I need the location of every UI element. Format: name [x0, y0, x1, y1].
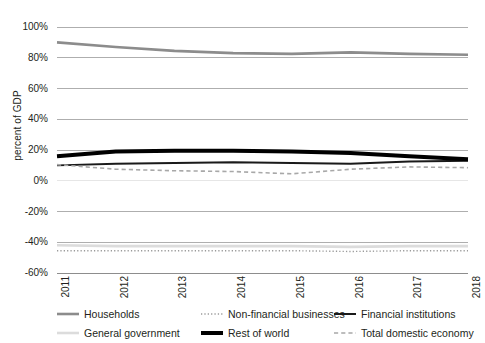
- x-tick-label: 2012: [120, 276, 130, 298]
- series-line: [57, 251, 468, 252]
- legend-label: General government: [84, 327, 180, 339]
- x-tick-label: 2017: [413, 276, 423, 298]
- y-tick-label: 40%: [28, 114, 48, 124]
- legend-swatch-icon: [334, 327, 356, 339]
- legend-swatch-icon: [334, 308, 356, 320]
- y-tick-label: -40%: [25, 237, 48, 247]
- legend-label: Financial institutions: [361, 308, 456, 320]
- legend-label: Rest of world: [228, 327, 289, 339]
- series-line: [57, 245, 468, 247]
- x-tick-label: 2013: [178, 276, 188, 298]
- x-tick-label: 2018: [472, 276, 482, 298]
- legend-swatch-icon: [201, 308, 223, 320]
- y-tick-label: 0%: [34, 176, 48, 186]
- chart-legend: HouseholdsNon-financial businessesFinanc…: [57, 306, 485, 343]
- y-tick-label: 20%: [28, 145, 48, 155]
- y-tick-label: 100%: [22, 22, 48, 32]
- legend-swatch-icon: [57, 308, 79, 320]
- legend-label: Total domestic economy: [361, 327, 474, 339]
- x-tick-label: 2011: [61, 276, 71, 298]
- series-line: [57, 165, 468, 174]
- y-tick-label: 80%: [28, 53, 48, 63]
- plot-area: [57, 27, 468, 273]
- legend-item[interactable]: Financial institutions: [334, 306, 456, 322]
- legend-swatch-icon: [57, 327, 79, 339]
- y-tick-label: 60%: [28, 84, 48, 94]
- legend-item[interactable]: Rest of world: [201, 325, 289, 341]
- legend-swatch-icon: [201, 327, 223, 339]
- y-tick-label: -20%: [25, 207, 48, 217]
- x-tick-label: 2014: [237, 276, 247, 298]
- legend-item[interactable]: General government: [57, 325, 180, 341]
- x-tick-label: 2015: [296, 276, 306, 298]
- legend-item[interactable]: Non-financial businesses: [201, 306, 345, 322]
- legend-item[interactable]: Households: [57, 306, 139, 322]
- series-line: [57, 151, 468, 159]
- y-tick-label: -60%: [25, 268, 48, 278]
- line-chart: percent of GDP 100%80%60%40%20%0%-20%-40…: [0, 0, 485, 343]
- x-tick-label: 2016: [355, 276, 365, 298]
- legend-label: Households: [84, 308, 139, 320]
- y-axis-tick-labels: 100%80%60%40%20%0%-20%-40%-60%: [0, 27, 52, 273]
- legend-item[interactable]: Total domestic economy: [334, 325, 474, 341]
- legend-label: Non-financial businesses: [228, 308, 345, 320]
- series-line: [57, 161, 468, 166]
- series-line: [57, 42, 468, 54]
- plot-canvas: [57, 27, 468, 273]
